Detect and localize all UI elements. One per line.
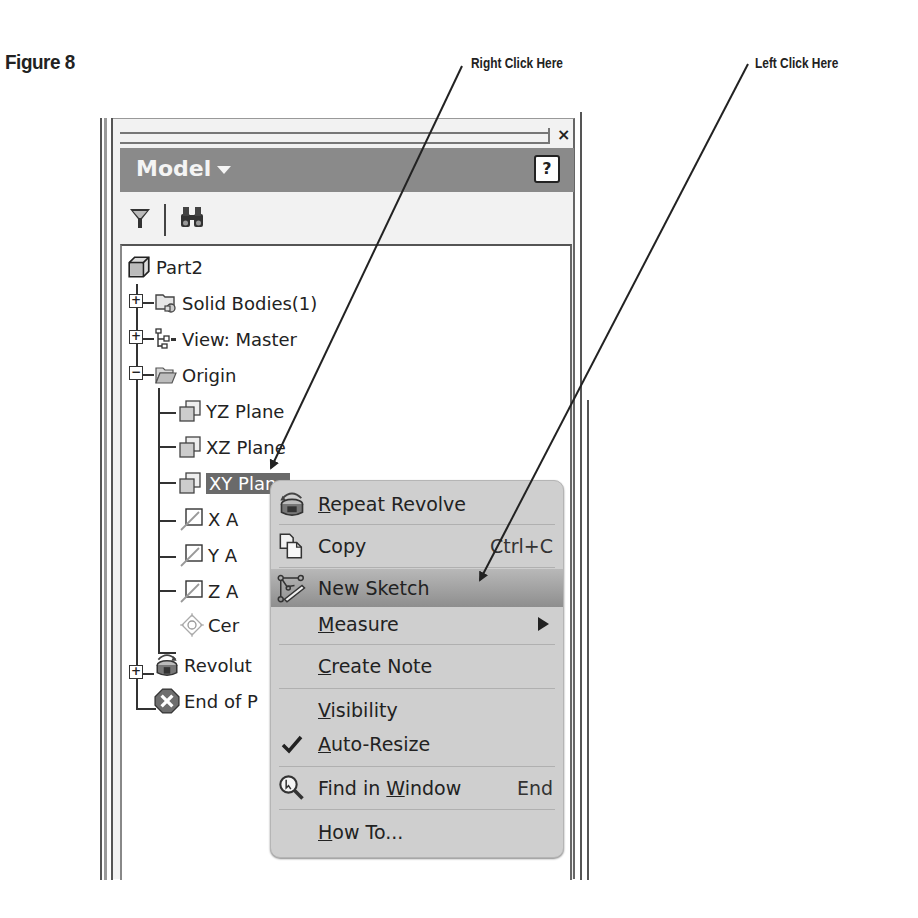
- menu-item-label: epeat Revolve: [330, 493, 466, 515]
- tree-connector: [158, 482, 176, 484]
- menu-mnemonic: W: [386, 777, 404, 799]
- menu-item-label: uto-Resize: [331, 733, 430, 755]
- tree-item-solid-bodies[interactable]: Solid Bodies(1): [154, 288, 317, 318]
- menu-mnemonic: M: [318, 613, 334, 635]
- frame-line: [104, 118, 107, 880]
- menu-item-measure[interactable]: Measure: [271, 605, 563, 643]
- checkmark-icon: [280, 732, 304, 756]
- end-of-part-icon: [154, 688, 180, 714]
- menu-item-how-to[interactable]: How To...: [271, 813, 563, 851]
- tree-item-x-axis[interactable]: X A: [180, 504, 238, 534]
- filter-icon[interactable]: [128, 206, 152, 232]
- plane-icon: [178, 471, 202, 495]
- menu-separator: [279, 766, 555, 767]
- tree-item-view-master[interactable]: View: Master: [154, 324, 297, 354]
- menu-item-new-sketch[interactable]: New Sketch: [271, 569, 563, 607]
- menu-item-repeat-revolve[interactable]: Repeat Revolve: [271, 485, 563, 523]
- tree-item-label: Y A: [208, 545, 237, 566]
- tree-connector: [142, 673, 154, 675]
- tree-item-y-axis[interactable]: Y A: [180, 540, 237, 570]
- menu-separator: [279, 644, 555, 645]
- tree-item-label: Z A: [208, 581, 238, 602]
- model-dropdown[interactable]: Model: [136, 156, 231, 181]
- frame-line: [587, 400, 589, 880]
- menu-item-visibility[interactable]: Visibility: [271, 691, 563, 729]
- menu-item-auto-resize[interactable]: Auto-Resize: [271, 725, 563, 763]
- context-menu: Repeat Revolve Copy Ctrl+C New Sketch Me…: [270, 480, 564, 858]
- new-sketch-icon: [277, 573, 307, 603]
- axis-icon: [180, 507, 204, 531]
- figure-title: Figure 8: [5, 50, 75, 74]
- binoculars-icon[interactable]: [178, 204, 206, 230]
- panel-drag-grip[interactable]: [120, 132, 550, 144]
- callout-left-click: Left Click Here: [755, 55, 838, 71]
- tree-connector: [136, 284, 138, 709]
- menu-item-label: reate Note: [331, 655, 432, 677]
- tree-connector: [158, 556, 176, 558]
- part-cube-icon: [126, 254, 152, 280]
- menu-item-copy[interactable]: Copy Ctrl+C: [271, 527, 563, 565]
- menu-mnemonic: A: [318, 733, 331, 755]
- tree-item-label: End of P: [184, 691, 258, 712]
- tree-item-xz-plane[interactable]: XZ Plane: [178, 432, 286, 462]
- menu-item-label: Find in: [318, 777, 386, 799]
- menu-separator: [279, 688, 555, 689]
- menu-item-create-note[interactable]: Create Note: [271, 647, 563, 685]
- find-in-window-icon: [278, 774, 306, 802]
- tree-item-yz-plane[interactable]: YZ Plane: [178, 396, 284, 426]
- collapse-toggle[interactable]: −: [129, 366, 143, 380]
- menu-separator: [279, 567, 555, 568]
- expand-toggle[interactable]: +: [129, 665, 143, 679]
- panel-title: Model: [136, 156, 211, 181]
- view-rep-icon: [154, 327, 178, 351]
- tree-connector: [158, 446, 176, 448]
- tree-item-revolution[interactable]: Revolut: [154, 650, 252, 680]
- tree-connector: [158, 590, 176, 592]
- toolbar-separator: [164, 204, 166, 236]
- frame-line: [580, 112, 582, 880]
- callout-right-click: Right Click Here: [471, 55, 563, 71]
- tree-item-part2[interactable]: Part2: [126, 252, 203, 282]
- menu-item-label: ow To...: [332, 821, 403, 843]
- axis-icon: [180, 543, 204, 567]
- folder-open-icon: [154, 363, 178, 387]
- axis-icon: [180, 579, 204, 603]
- copy-icon: [278, 532, 306, 560]
- panel-header: Model ?: [120, 148, 574, 192]
- tree-connector: [158, 412, 176, 414]
- plane-icon: [178, 435, 202, 459]
- tree-item-end-of-part[interactable]: End of P: [154, 686, 258, 716]
- tree-connector: [142, 374, 154, 376]
- menu-item-label: isibility: [331, 699, 398, 721]
- tree-item-label: YZ Plane: [206, 401, 284, 422]
- tree-connector: [158, 520, 176, 522]
- menu-item-label: easure: [334, 613, 398, 635]
- menu-item-label: indow: [405, 777, 462, 799]
- tree-item-center-point[interactable]: Cer: [180, 610, 239, 640]
- tree-connector: [142, 302, 154, 304]
- menu-separator: [279, 524, 555, 525]
- frame-line: [100, 118, 102, 880]
- tree-connector: [136, 708, 156, 710]
- tree-item-z-axis[interactable]: Z A: [180, 576, 238, 606]
- tree-connector: [142, 338, 154, 340]
- tree-item-label: View: Master: [182, 329, 297, 350]
- menu-item-find-in-window[interactable]: Find in Window End: [271, 769, 563, 807]
- submenu-arrow-icon: [538, 617, 549, 631]
- menu-shortcut: End: [517, 777, 553, 799]
- center-point-icon: [180, 613, 204, 637]
- menu-item-label: Copy: [318, 535, 366, 557]
- menu-mnemonic: C: [318, 655, 331, 677]
- menu-item-label: New Sketch: [318, 577, 430, 599]
- solid-bodies-icon: [154, 291, 178, 315]
- help-icon[interactable]: ?: [534, 155, 560, 183]
- tree-item-label: XZ Plane: [206, 437, 286, 458]
- menu-mnemonic: R: [318, 493, 330, 515]
- expand-toggle[interactable]: +: [129, 294, 143, 308]
- panel-grip-end: [548, 128, 550, 142]
- expand-toggle[interactable]: +: [129, 330, 143, 344]
- revolve-icon: [278, 490, 306, 518]
- close-icon[interactable]: ×: [557, 125, 570, 144]
- chevron-down-icon: [217, 166, 231, 174]
- tree-item-origin[interactable]: Origin: [154, 360, 236, 390]
